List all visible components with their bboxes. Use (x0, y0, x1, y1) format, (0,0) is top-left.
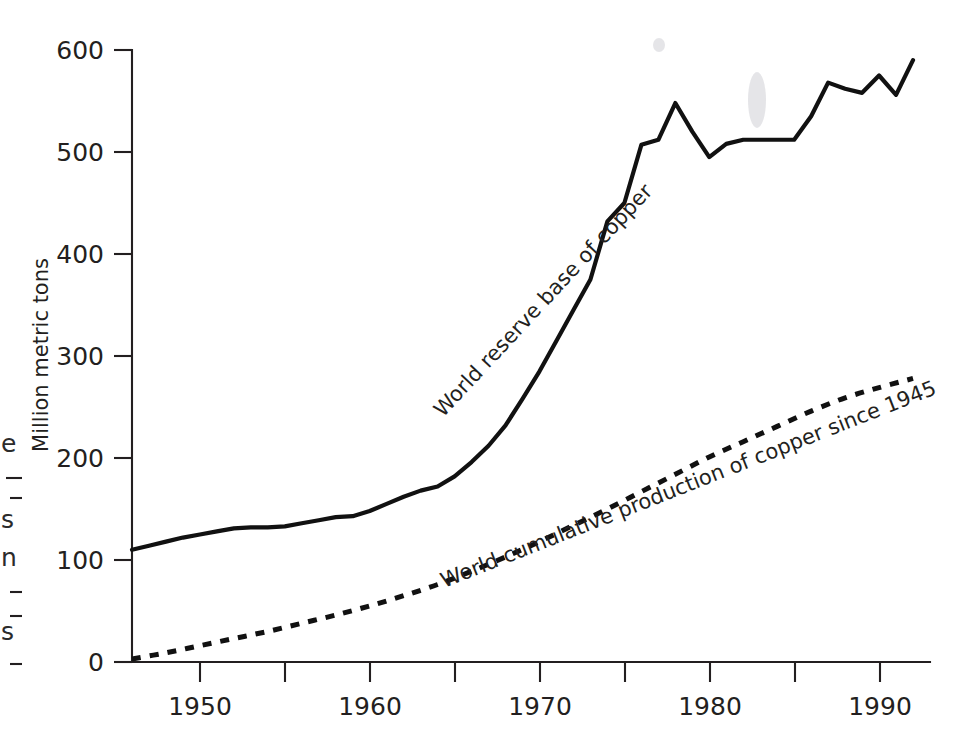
edge-fragment-glyph: s (1, 505, 14, 534)
figure-container: 600 500 400 300 200 100 0 1950 1960 1970… (0, 0, 968, 754)
x-tick-label-1970: 1970 (508, 692, 572, 721)
left-margin-fragments: e s n s (1, 429, 22, 664)
series-line-cumulative-production (132, 378, 913, 659)
x-tick-label-1960: 1960 (338, 692, 402, 721)
x-tick-label-1950: 1950 (168, 692, 232, 721)
y-tick-label-600: 600 (56, 36, 104, 65)
series-annotation-cumulative-production: World cumulative production of copper si… (437, 376, 939, 593)
y-tick-label-100: 100 (56, 546, 104, 575)
y-tick-label-400: 400 (56, 240, 104, 269)
y-tick-label-0: 0 (88, 648, 104, 677)
y-tick-label-500: 500 (56, 138, 104, 167)
y-tick-label-300: 300 (56, 342, 104, 371)
y-tick-label-200: 200 (56, 444, 104, 473)
edge-fragment-glyph: e (1, 429, 16, 458)
scan-smudge (748, 72, 766, 128)
scan-smudge (653, 38, 665, 52)
edge-fragment-glyph: s (1, 617, 14, 646)
copper-reserves-line-chart: 600 500 400 300 200 100 0 1950 1960 1970… (0, 0, 968, 754)
x-axis-ticks (200, 662, 880, 682)
y-axis-title: Million metric tons (29, 258, 53, 452)
series-annotation-reserve-base: World reserve base of copper (429, 179, 657, 421)
x-tick-label-1990: 1990 (848, 692, 912, 721)
edge-fragment-glyph: n (1, 543, 17, 572)
y-axis-ticks (114, 50, 132, 662)
x-tick-label-1980: 1980 (678, 692, 742, 721)
